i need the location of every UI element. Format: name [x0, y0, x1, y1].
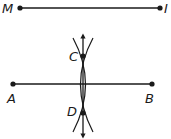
construction-diagram: M I A B C D: [0, 0, 171, 139]
label-b: B: [145, 91, 154, 106]
label-m: M: [2, 1, 13, 16]
point-d: [80, 110, 85, 115]
point-b: [149, 81, 154, 86]
point-m: [17, 5, 22, 10]
point-a: [10, 81, 15, 86]
point-i: [157, 5, 162, 10]
bisector-line: C D: [67, 36, 86, 136]
label-a: A: [6, 91, 16, 106]
label-d: D: [67, 104, 77, 119]
point-c: [80, 53, 85, 58]
label-c: C: [69, 49, 79, 64]
label-i: I: [164, 1, 168, 16]
segment-mi: M I: [2, 1, 168, 16]
